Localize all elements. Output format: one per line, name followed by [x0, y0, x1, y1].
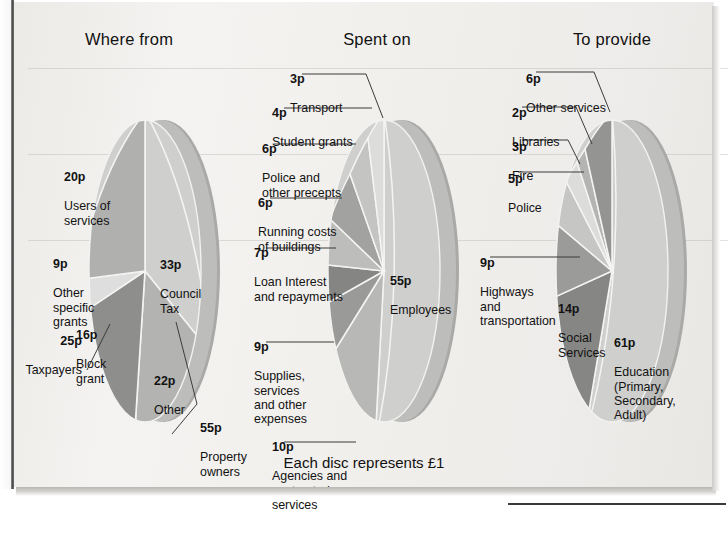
slice-name: Social Services	[558, 331, 606, 359]
chart-title-to-provide: To provide	[510, 30, 714, 49]
callout-taxpayers: 25p Taxpayers	[4, 320, 82, 378]
slice-amount: 33p	[160, 258, 181, 272]
callout-amount: 25p	[60, 334, 82, 348]
figure-paper: Where from	[14, 2, 714, 487]
slice-name: Running costs of buildings	[258, 225, 337, 253]
slice-name: Fire	[512, 169, 533, 183]
chart-title-where-from: Where from	[14, 30, 244, 49]
slice-amount: 2p	[512, 106, 527, 120]
paper-right-shadow	[712, 6, 720, 491]
slice-amount: 3p	[290, 72, 305, 86]
slice-name: Employees	[390, 303, 451, 317]
slice-name: Council Tax	[160, 287, 201, 315]
bottom-right-rule	[508, 503, 726, 505]
slice-name: Police	[508, 201, 542, 215]
slice-amount: 55p	[390, 274, 411, 288]
slice-name: Users of services	[64, 199, 110, 227]
slice-name: Transport	[290, 101, 343, 115]
slice-label-users-of-services: 20p Users of services	[64, 156, 140, 228]
slice-name: Loan Interest and repayments	[254, 275, 343, 303]
slice-name: Police and other precepts	[262, 171, 341, 199]
slice-name: Highways and transportation	[480, 285, 556, 328]
slice-name: Libraries	[512, 135, 560, 149]
slice-name: Supplies, services and other expenses	[254, 369, 307, 426]
callout-amount: 55p	[200, 421, 222, 435]
slice-amount: 22p	[154, 374, 175, 388]
label-supplies-services-expenses: 9p Supplies, services and other expenses	[254, 326, 346, 427]
slice-amount: 10p	[272, 440, 294, 454]
slice-amount: 4p	[272, 106, 287, 120]
slice-amount: 20p	[64, 170, 85, 184]
label-transport: 3p Transport	[290, 58, 376, 116]
chart-where-from: Where from	[14, 2, 244, 487]
chart-title-spent-on: Spent on	[274, 30, 480, 49]
figure-footnote: Each disc represents £1	[14, 454, 714, 471]
slice-label-education: 61p Education (Primary, Secondary, Adult…	[614, 322, 702, 423]
paper-bottom-shadow	[16, 487, 716, 496]
slice-amount: 6p	[526, 72, 541, 86]
slice-name: Other services	[526, 101, 606, 115]
slice-amount: 9p	[480, 256, 495, 270]
callout-label: Taxpayers	[26, 363, 82, 377]
slice-name: Education (Primary, Secondary, Adult)	[614, 365, 676, 422]
label-other-services: 6p Other services	[526, 58, 630, 116]
slice-label-employees: 55p Employees	[390, 260, 474, 318]
chart-spent-on: Spent on	[244, 2, 480, 487]
slice-name: Other	[154, 403, 185, 417]
slice-label-other-specific-grants: 9p Other specific grants	[53, 243, 125, 329]
chart-to-provide: To provide	[480, 2, 714, 487]
slice-name: Student grants	[272, 135, 353, 149]
page-left-margin	[0, 0, 11, 489]
label-highways-transportation: 9p Highways and transportation	[480, 242, 572, 328]
slice-amount: 9p	[53, 257, 67, 271]
slice-label-council-tax: 33p Council Tax	[160, 244, 230, 316]
slice-amount: 9p	[254, 340, 269, 354]
